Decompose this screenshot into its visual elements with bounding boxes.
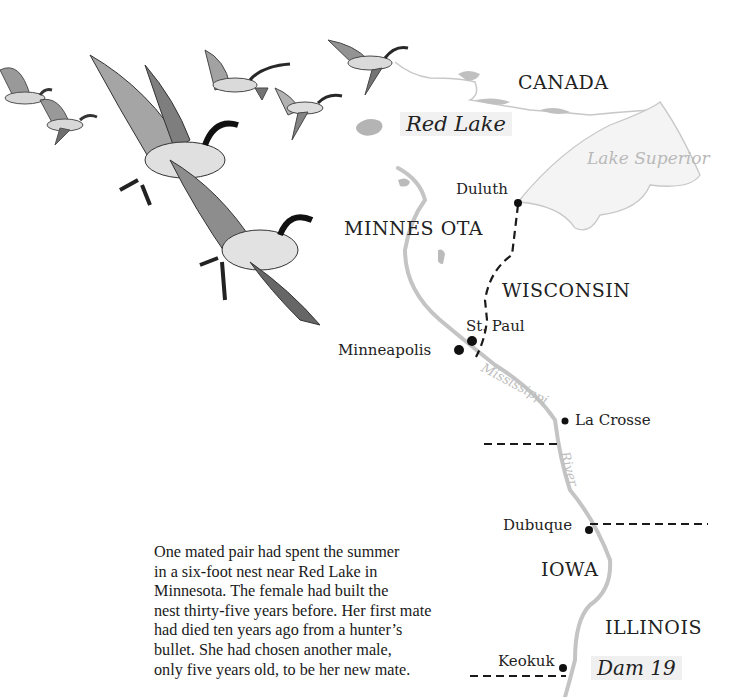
la-crosse-label: La Crosse: [575, 411, 651, 429]
goose-icon: [170, 160, 320, 325]
book-page: CANADA MINNES OTA WISCONSIN IOWA ILLINOI…: [0, 0, 749, 697]
goose-icon: [328, 40, 408, 95]
wisconsin-label: WISCONSIN: [502, 279, 630, 301]
goose-icon: [0, 68, 52, 104]
goose-icon: [275, 88, 342, 140]
duluth-dot: [514, 199, 522, 207]
goose-icon: [40, 99, 97, 145]
red-lake-icon: [356, 119, 383, 136]
iowa-label: IOWA: [541, 558, 598, 580]
duluth-label: Duluth: [456, 180, 508, 198]
story-line: only five years old, to be her new mate.: [154, 661, 494, 681]
story-line: bullet. She had chosen another male,: [154, 641, 494, 661]
red-lake-label: Red Lake: [400, 112, 512, 136]
story-line: One mated pair had spent the summer: [154, 543, 494, 563]
minnesota-label: MINNES OTA: [344, 217, 483, 239]
dam-19-label: Dam 19: [591, 656, 682, 680]
illinois-label: ILLINOIS: [605, 616, 702, 638]
la-crosse-dot: [562, 418, 569, 425]
minneapolis-dot: [454, 345, 464, 355]
lake-superior-label: Lake Superior: [587, 148, 710, 168]
dubuque-dot: [585, 526, 593, 534]
dubuque-label: Dubuque: [503, 516, 572, 534]
geese-illustration: [0, 40, 408, 325]
keokuk-dot: [559, 664, 567, 672]
story-line: Minnesota. The female had built the: [154, 582, 494, 602]
story-line: in a six-foot nest near Red Lake in: [154, 563, 494, 583]
keokuk-label: Keokuk: [498, 652, 555, 670]
story-paragraph: One mated pair had spent the summer in a…: [154, 543, 494, 680]
minneapolis-label: Minneapolis: [338, 341, 431, 359]
canada-label: CANADA: [518, 71, 609, 93]
st-paul-label: St. Paul: [466, 317, 525, 335]
story-line: nest thirty-five years before. Her first…: [154, 602, 494, 622]
story-line: had died ten years ago from a hunter’s: [154, 621, 494, 641]
st-paul-dot: [467, 336, 477, 346]
